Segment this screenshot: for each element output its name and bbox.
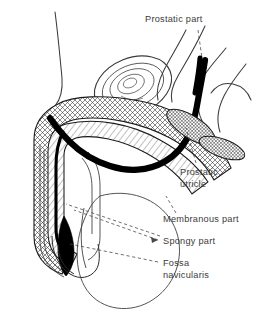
label-prostatic-utricle-line1: Prostatic [180, 167, 218, 177]
label-spongy-part: Spongy part [163, 236, 215, 246]
label-prostatic-part: Prostatic part [145, 14, 203, 24]
anatomy-figure: Prostatic part Prostatic utricle Membran… [0, 0, 269, 320]
urethra-diagram-svg: Prostatic part Prostatic utricle Membran… [0, 0, 269, 320]
label-fossa-line1: Fossa [163, 258, 190, 268]
label-membranous-part: Membranous part [163, 214, 239, 224]
label-prostatic-utricle-line2: utricle [180, 179, 206, 189]
label-fossa-line2: navicularis [163, 270, 209, 280]
